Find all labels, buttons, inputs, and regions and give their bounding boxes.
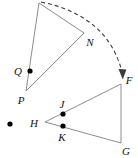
label-J: J bbox=[60, 98, 66, 110]
label-P: P bbox=[17, 94, 25, 106]
label-K: K bbox=[57, 131, 66, 143]
geometry-figure: Q P N F H J K G bbox=[0, 0, 138, 158]
label-H: H bbox=[29, 117, 39, 129]
upper-triangle bbox=[26, 3, 84, 91]
segment-N-to-P bbox=[26, 33, 84, 91]
label-Q: Q bbox=[14, 65, 22, 77]
segment-apex-to-P bbox=[26, 3, 39, 91]
point-dot-Q bbox=[27, 68, 32, 73]
label-N: N bbox=[85, 36, 94, 48]
figure-canvas: Q P N F H J K G bbox=[0, 0, 138, 158]
segment-H-to-F bbox=[45, 84, 121, 122]
lower-triangle bbox=[45, 84, 121, 143]
point-dot-K bbox=[60, 123, 65, 128]
point-dot-J bbox=[60, 111, 65, 116]
label-G: G bbox=[122, 145, 130, 157]
label-F: F bbox=[125, 74, 133, 86]
segment-H-to-G bbox=[45, 122, 121, 143]
point-dot-stray bbox=[7, 121, 12, 126]
